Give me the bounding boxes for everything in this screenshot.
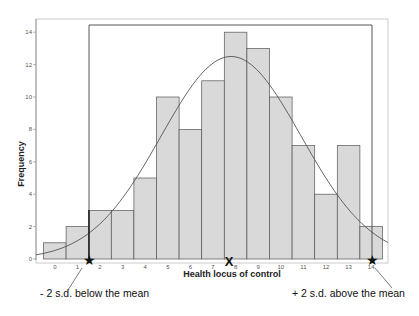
y-ticks: 02468101214 xyxy=(25,29,36,262)
x-tick-label: 3 xyxy=(121,264,125,270)
y-tick-label: 10 xyxy=(25,94,32,100)
x-tick-label: 0 xyxy=(53,264,57,270)
x-tick-label: 12 xyxy=(323,264,330,270)
x-tick-label: 13 xyxy=(345,264,352,270)
x-axis-title: Health locus of control xyxy=(183,269,281,279)
histogram-bar xyxy=(292,146,315,259)
histogram-chart: 02468101214 01234567891011121314 ★ X ★ F… xyxy=(0,0,419,316)
x-tick-label: 4 xyxy=(144,264,148,270)
upper-annotation-pointer xyxy=(375,268,392,288)
histogram-bar xyxy=(179,129,202,259)
histogram-bar xyxy=(157,97,180,259)
x-tick-label: 5 xyxy=(166,264,170,270)
y-tick-label: 12 xyxy=(25,62,32,68)
y-tick-label: 0 xyxy=(29,256,33,262)
histogram-bar xyxy=(134,178,157,259)
x-tick-label: 11 xyxy=(300,264,307,270)
histogram-bar xyxy=(202,81,225,259)
y-tick-label: 4 xyxy=(29,191,33,197)
bars-group xyxy=(44,32,383,259)
y-tick-label: 2 xyxy=(29,224,33,230)
mean-x-marker: X xyxy=(225,254,234,269)
upper-sd-star-icon: ★ xyxy=(366,252,379,268)
x-tick-label: 1 xyxy=(76,264,80,270)
y-tick-label: 14 xyxy=(25,29,32,35)
histogram-bar xyxy=(315,194,338,259)
y-tick-label: 8 xyxy=(29,126,33,132)
histogram-bar xyxy=(270,97,293,259)
histogram-bar xyxy=(337,146,360,259)
histogram-bar xyxy=(111,210,134,259)
lower-sd-annotation: - 2 s.d. below the mean xyxy=(40,287,149,299)
lower-sd-star-icon: ★ xyxy=(83,252,96,268)
y-tick-label: 6 xyxy=(29,159,33,165)
histogram-bar xyxy=(224,32,247,259)
x-tick-label: 2 xyxy=(98,264,102,270)
upper-sd-annotation: + 2 s.d. above the mean xyxy=(292,287,405,299)
y-axis-title: Frequency xyxy=(16,141,26,187)
